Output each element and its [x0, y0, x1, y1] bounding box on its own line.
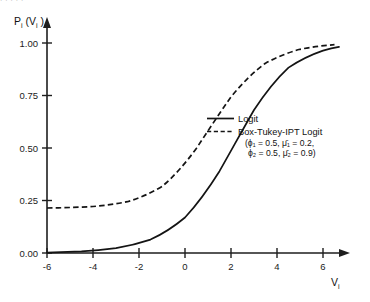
x-tick-label: -4 [89, 261, 97, 272]
x-axis-tick-labels: -6 -4 -2 0 2 4 6 [43, 261, 326, 272]
x-tick-label: -2 [135, 261, 143, 272]
x-tick-label: 0 [182, 261, 187, 272]
x-tick-label: 6 [320, 261, 325, 272]
x-tick-label: -6 [43, 261, 51, 272]
legend-label-logit: Logit [238, 114, 259, 124]
y-tick-label: 0.75 [20, 90, 39, 101]
legend-param-line-1: (ϕ₁ = 0.5, μ̄₁ = 0.2, [245, 138, 314, 148]
y-tick-label: 1.00 [20, 38, 39, 49]
y-axis-arrowhead [43, 17, 51, 28]
x-axis-title: Vi [331, 276, 340, 290]
chart-legend: Logit Box-Tukey-IPT Logit (ϕ₁ = 0.5, μ̄₁… [207, 114, 323, 158]
y-tick-label: 0.00 [20, 248, 39, 259]
y-axis-title-main: P [14, 15, 21, 27]
svg-text:Vi: Vi [331, 276, 340, 290]
x-tick-label: 2 [228, 261, 233, 272]
x-axis-arrowhead [339, 249, 350, 257]
y-axis-tick-labels: 0.00 0.25 0.50 0.75 1.00 [20, 38, 39, 259]
legend-param-line-2: ϕ₂ = 0.5, μ̄₂ = 0.9) [248, 148, 316, 158]
y-tick-label: 0.25 [20, 195, 39, 206]
y-axis-title-close: ) [38, 15, 44, 27]
x-tick-label: 4 [274, 261, 279, 272]
legend-label-box-tukey-ipt-logit: Box-Tukey-IPT Logit [238, 127, 323, 137]
y-axis-title-open: (V [23, 15, 36, 27]
x-axis-title-main: V [331, 276, 338, 288]
figure-container: . . . . . [0, 0, 370, 302]
svg-text:Pi (Vi ): Pi (Vi ) [14, 15, 44, 29]
y-tick-label: 0.50 [20, 143, 39, 154]
y-axis-title: Pi (Vi ) [14, 15, 44, 29]
chart-plot: 0.00 0.25 0.50 0.75 1.00 -6 -4 -2 0 2 4 … [0, 0, 370, 302]
x-axis-title-sub: i [338, 283, 340, 290]
y-axis [43, 17, 51, 253]
